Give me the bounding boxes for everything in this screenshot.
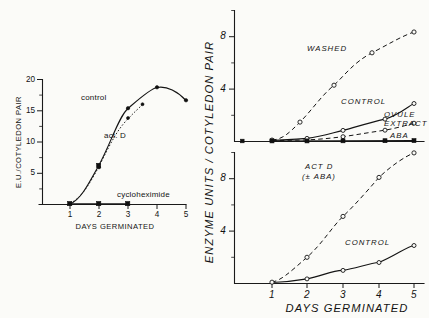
figure-svg: 5 10 15 20 1 2 3 4 5 E.U./COTYLEDON PAIR… xyxy=(0,0,429,318)
bottom-right-panel-label-actd-line1: ACT D xyxy=(304,162,333,171)
top-right-panel-ytick-8: 8 xyxy=(220,30,226,41)
bottom-right-panel-series-control-curve xyxy=(272,246,414,283)
top-right-panel: 4 8 xyxy=(220,11,428,143)
top-right-panel-label-ovule-extract-line1: OVULE xyxy=(384,110,415,119)
bottom-right-panel-xtick-5: 5 xyxy=(411,289,417,300)
top-right-panel-label-washed: WASHED xyxy=(307,44,347,53)
bottom-right-panel-xtick-4: 4 xyxy=(376,289,382,300)
bottom-right-panel-xtick-2: 2 xyxy=(303,289,310,300)
bottom-right-panel: 4 8 1 2 3 4 5 DAYS GERMINATED xyxy=(220,151,424,314)
left-panel-label-control: control xyxy=(81,93,106,102)
left-panel-xtick-5: 5 xyxy=(184,210,189,219)
left-panel-x-axis-title: DAYS GERMINATED xyxy=(75,222,154,231)
figure-panel: 5 10 15 20 1 2 3 4 5 E.U./COTYLEDON PAIR… xyxy=(0,0,429,318)
bottom-right-panel-ytick-4: 4 xyxy=(220,225,226,236)
left-panel-axes xyxy=(43,80,187,205)
left-panel-label-actd: act. D xyxy=(104,131,126,140)
left-panel-xtick-3: 3 xyxy=(126,210,131,219)
left-panel: 5 10 15 20 1 2 3 4 5 E.U./COTYLEDON PAIR… xyxy=(14,75,189,231)
left-panel-xtick-1: 1 xyxy=(68,210,73,219)
top-right-panel-label-control: CONTROL xyxy=(341,97,386,106)
top-right-panel-label-ovule-extract-line2: EXTRACT xyxy=(384,119,428,128)
bottom-right-panel-label-control: CONTROL xyxy=(345,238,390,247)
bottom-right-panel-ytick-8: 8 xyxy=(220,172,226,183)
bottom-right-panel-y-ticks xyxy=(229,153,235,258)
bottom-right-panel-x-axis-title: DAYS GERMINATED xyxy=(286,302,409,314)
right-panels-shared-y-axis-title: ENZYME UNITS / COTYLEDON PAIR xyxy=(203,41,215,264)
left-panel-y-ticks xyxy=(37,80,43,205)
left-panel-xtick-2: 2 xyxy=(97,210,102,219)
bottom-right-panel-label-actd-line2: (± ABA) xyxy=(302,172,336,181)
left-panel-ytick-10: 10 xyxy=(26,137,36,146)
left-panel-ytick-15: 15 xyxy=(26,106,36,115)
left-panel-series-control-curve xyxy=(70,87,186,204)
top-right-panel-y-ticks xyxy=(229,11,235,116)
left-panel-y-axis-title: E.U./COTYLEDON PAIR xyxy=(14,96,23,188)
left-panel-ytick-20: 20 xyxy=(26,75,36,84)
left-panel-series-actd-curve xyxy=(70,105,143,204)
left-panel-label-cycloheximide: cycloheximide xyxy=(117,190,170,199)
bottom-right-panel-x-ticks xyxy=(272,284,414,289)
bottom-right-panel-data-points xyxy=(270,151,416,285)
top-right-panel-ytick-4: 4 xyxy=(220,83,226,94)
bottom-right-panel-xtick-3: 3 xyxy=(340,289,346,300)
bottom-right-panel-xtick-1: 1 xyxy=(269,289,275,300)
left-panel-xtick-4: 4 xyxy=(155,210,160,219)
left-panel-ytick-5: 5 xyxy=(30,168,35,177)
top-right-panel-label-aba: ABA xyxy=(389,131,409,140)
